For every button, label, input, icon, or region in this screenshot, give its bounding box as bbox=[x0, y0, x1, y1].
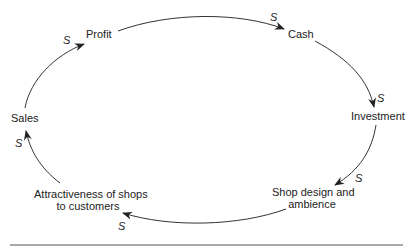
polarity-investment-shopdesign: S bbox=[355, 172, 362, 184]
link-cash-investment bbox=[315, 41, 374, 107]
link-attractiveness-sales bbox=[26, 131, 60, 183]
node-profit: Profit bbox=[86, 28, 112, 40]
node-attractiveness-line2: to customers bbox=[34, 200, 142, 212]
node-shop-design-line1: Shop design and bbox=[272, 186, 352, 198]
link-profit-cash bbox=[118, 16, 284, 31]
link-sales-profit bbox=[25, 44, 84, 108]
node-cash: Cash bbox=[288, 28, 314, 40]
polarity-shopdesign-attractiveness: S bbox=[118, 220, 125, 232]
node-shop-design-line2: ambience bbox=[272, 198, 352, 210]
polarity-attractiveness-sales: S bbox=[15, 137, 22, 149]
polarity-profit-cash: S bbox=[270, 11, 277, 23]
link-shopdesign-attractiveness bbox=[123, 209, 286, 223]
causal-loop-diagram: Sales Profit Cash Investment Shop design… bbox=[0, 0, 412, 249]
node-shop-design: Shop design and ambience bbox=[272, 186, 352, 210]
node-attractiveness-line1: Attractiveness of shops bbox=[34, 188, 142, 200]
polarity-sales-profit: S bbox=[63, 34, 70, 46]
polarity-cash-investment: S bbox=[377, 92, 384, 104]
node-investment: Investment bbox=[351, 110, 405, 122]
node-attractiveness: Attractiveness of shops to customers bbox=[34, 188, 142, 212]
node-sales: Sales bbox=[11, 112, 39, 124]
